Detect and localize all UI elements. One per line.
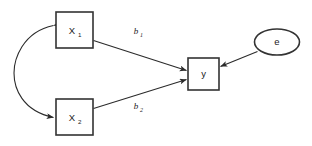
- edge-label-b2: b: [134, 101, 139, 111]
- node-x2-subscript: 2: [78, 118, 82, 125]
- edge-label-b1: b: [134, 26, 139, 36]
- edge-label-b1-subscript: 1: [140, 32, 143, 38]
- edge-label-b2-subscript: 2: [140, 107, 143, 113]
- path-diagram-svg: X 1 X 2 y e b 1 b 2: [0, 0, 312, 146]
- node-x2-label: X: [69, 112, 76, 123]
- edge-x1-x2-correlation: [14, 26, 54, 118]
- path-diagram-canvas: X 1 X 2 y e b 1 b 2: [0, 0, 312, 146]
- node-e-label: e: [274, 36, 279, 47]
- node-x1-label: X: [69, 25, 76, 36]
- edge-x2-to-y: [94, 80, 187, 109]
- edge-e-to-y: [221, 52, 258, 67]
- edge-x1-to-y: [94, 41, 187, 71]
- node-y-label: y: [201, 68, 206, 79]
- node-x1-subscript: 1: [78, 31, 82, 38]
